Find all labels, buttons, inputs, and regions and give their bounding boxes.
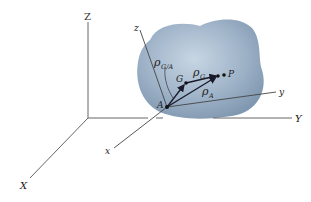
label-P: P bbox=[227, 69, 235, 79]
axis-label-Z: Z bbox=[84, 11, 91, 22]
axis-label-z: z bbox=[133, 23, 139, 33]
axis-label-y: y bbox=[278, 87, 285, 97]
svg-text:ρ: ρ bbox=[192, 66, 200, 79]
label-G: G bbox=[176, 74, 183, 84]
rigid-body-diagram: Z X Y z y x A G P ρ G/A ρ G ρ A bbox=[0, 0, 311, 202]
point-A bbox=[165, 105, 169, 109]
point-P-arrow bbox=[216, 74, 220, 78]
svg-text:A: A bbox=[208, 92, 214, 100]
axis-label-Y: Y bbox=[295, 113, 303, 124]
point-G bbox=[184, 81, 188, 85]
label-A: A bbox=[156, 100, 164, 110]
axis-label-x: x bbox=[105, 146, 110, 156]
svg-text:G/A: G/A bbox=[161, 63, 173, 71]
svg-text:G: G bbox=[200, 73, 205, 81]
point-P bbox=[222, 73, 226, 77]
svg-text:ρ: ρ bbox=[153, 56, 161, 69]
axis-label-X: X bbox=[19, 180, 28, 191]
svg-text:ρ: ρ bbox=[201, 85, 209, 98]
